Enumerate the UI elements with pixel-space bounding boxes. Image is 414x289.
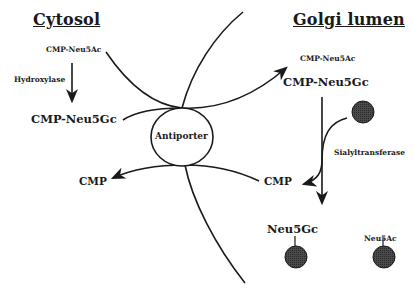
sialyltransferase-label: Sialyltransferase (334, 149, 405, 157)
cytosol-cmp-neu5gc-label: CMP-Neu5Gc (31, 114, 117, 126)
golgi-import-arrow (182, 68, 286, 108)
diagram-canvas: Cytosol Golgi lumen CMP-Neu5Ac Hydroxyla… (0, 0, 414, 289)
antiporter-label: Antiporter (155, 132, 208, 141)
golgi-cmp-neu5gc-label: CMP-Neu5Gc (283, 77, 369, 89)
cytosol-cmp-label: CMP (79, 176, 107, 187)
neu5gc-glycan (285, 246, 307, 268)
neu5ac-glycan (373, 246, 395, 268)
acceptor-glycan (352, 101, 374, 123)
diagram-graphics (0, 0, 414, 289)
cmp-export-arrow (113, 165, 185, 178)
cytosol-cmp-neu5ac-label: CMP-Neu5Ac (46, 46, 101, 54)
neu5ac-inflow-curve (106, 52, 182, 108)
region-title-golgi: Golgi lumen (293, 12, 405, 28)
membrane-upper (182, 12, 243, 108)
cmp-inflow-curve (185, 165, 259, 181)
neu5ac-label: Neu5Ac (364, 235, 397, 243)
golgi-cmp-neu5ac-label: CMP-Neu5Ac (300, 55, 355, 63)
region-title-cytosol: Cytosol (33, 12, 100, 28)
membrane-lower (185, 165, 245, 283)
neu5gc-label: Neu5Gc (267, 224, 318, 236)
golgi-cmp-label: CMP (264, 176, 292, 187)
hydroxylase-label: Hydroxylase (14, 76, 65, 84)
